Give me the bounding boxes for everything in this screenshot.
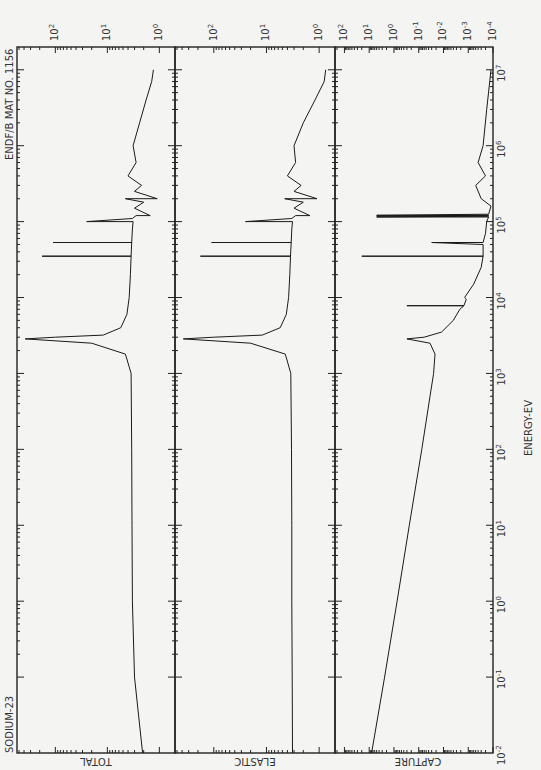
svg-text:105: 105 bbox=[495, 216, 507, 233]
svg-text:10-2: 10-2 bbox=[436, 21, 448, 41]
curve-elastic bbox=[183, 70, 325, 753]
svg-text:10-1: 10-1 bbox=[412, 21, 424, 41]
svg-text:100: 100 bbox=[312, 24, 324, 41]
svg-text:100: 100 bbox=[152, 24, 164, 41]
title-left: SODIUM-23 bbox=[4, 696, 15, 753]
svg-text:10-1: 10-1 bbox=[495, 669, 507, 689]
curve-capture bbox=[362, 70, 491, 753]
svg-text:10-4: 10-4 bbox=[486, 21, 498, 41]
svg-text:102: 102 bbox=[495, 444, 507, 461]
svg-text:10-3: 10-3 bbox=[461, 21, 473, 41]
svg-text:101: 101 bbox=[495, 520, 507, 537]
svg-text:104: 104 bbox=[495, 292, 507, 310]
panel-frame-total bbox=[17, 47, 175, 753]
svg-text:101: 101 bbox=[259, 24, 271, 41]
panel-frame-elastic bbox=[175, 47, 335, 753]
svg-text:102: 102 bbox=[48, 24, 60, 41]
tick-labels: 10010110210010110210-410-310-210-1100101… bbox=[48, 21, 507, 765]
svg-text:101: 101 bbox=[100, 24, 112, 41]
svg-text:102: 102 bbox=[207, 24, 219, 41]
svg-text:100: 100 bbox=[387, 24, 399, 41]
panel-frame-capture bbox=[335, 47, 493, 753]
x-axis-label: ENERGY-EV bbox=[523, 400, 534, 456]
panel-label-total: TOTAL bbox=[80, 756, 113, 767]
svg-text:101: 101 bbox=[362, 24, 374, 41]
data-curves bbox=[25, 70, 491, 753]
panel-label-capture: CAPTURE bbox=[395, 756, 442, 767]
svg-text:102: 102 bbox=[337, 24, 349, 41]
svg-text:10-2: 10-2 bbox=[495, 745, 507, 765]
svg-text:107: 107 bbox=[495, 65, 507, 82]
svg-text:106: 106 bbox=[495, 140, 507, 158]
panel-frames bbox=[17, 47, 493, 753]
cross-section-chart: 10010110210010110210-410-310-210-1100101… bbox=[0, 0, 541, 770]
title-right: ENDF/B MAT NO. 1156 bbox=[4, 49, 15, 160]
svg-text:103: 103 bbox=[495, 368, 507, 385]
curve-total bbox=[25, 70, 157, 753]
axis-ticks bbox=[17, 47, 493, 753]
panel-label-elastic: ELASTIC bbox=[234, 756, 275, 767]
svg-text:100: 100 bbox=[495, 596, 507, 613]
